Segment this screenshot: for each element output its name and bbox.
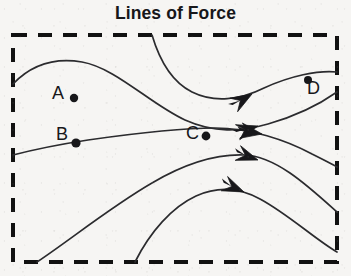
arrowhead-line-2	[226, 87, 256, 114]
point-label-c: C	[186, 124, 199, 142]
field-line-5	[135, 190, 337, 262]
arrowhead-line-5	[218, 175, 247, 199]
lines-of-force-diagram	[0, 0, 351, 276]
field-line-4	[37, 155, 337, 262]
point-label-a: A	[52, 84, 64, 102]
point-dot-c	[202, 132, 211, 141]
point-label-b: B	[56, 125, 68, 143]
dashed-border	[13, 35, 337, 262]
figure-page: Lines of Force	[0, 0, 351, 276]
point-label-d: D	[307, 79, 320, 97]
field-line-arrowheads	[218, 87, 264, 199]
point-dot-b	[71, 138, 80, 147]
point-dot-a	[70, 94, 78, 102]
field-lines-group	[13, 35, 337, 262]
